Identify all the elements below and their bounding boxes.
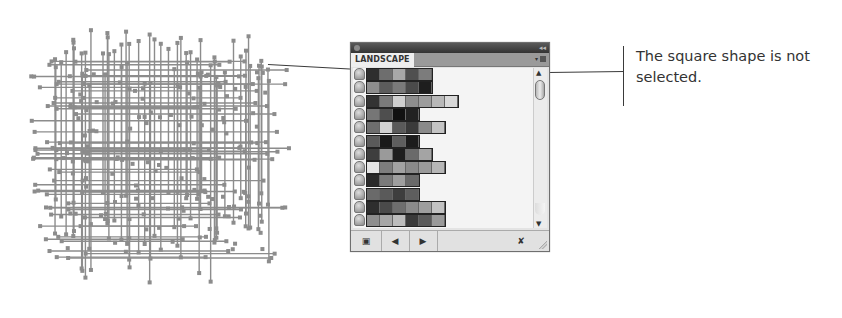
symbol-swatch[interactable]	[380, 82, 393, 93]
panel-titlebar[interactable]: ◂◂	[351, 43, 549, 53]
symbol-swatch[interactable]	[367, 175, 380, 186]
symbol-swatch[interactable]	[406, 189, 419, 200]
symbol-swatches[interactable]	[366, 188, 420, 201]
symbol-swatch[interactable]	[393, 136, 406, 147]
symbol-row[interactable]	[353, 95, 459, 108]
symbol-row[interactable]	[353, 68, 433, 81]
symbol-row[interactable]	[353, 121, 446, 134]
symbol-swatches[interactable]	[366, 148, 433, 161]
symbol-list[interactable]	[353, 68, 533, 228]
symbol-swatch[interactable]	[406, 122, 419, 133]
scrollbar[interactable]: ▲ ▼	[533, 68, 547, 228]
symbol-swatch[interactable]	[367, 122, 380, 133]
symbol-swatches[interactable]	[366, 81, 433, 94]
panel-menu-button[interactable]: ▾	[537, 55, 546, 64]
symbol-swatches[interactable]	[366, 161, 446, 174]
resize-grip[interactable]	[539, 241, 547, 249]
scroll-thumb[interactable]	[535, 80, 545, 100]
symbol-swatch[interactable]	[380, 162, 393, 173]
symbol-swatch[interactable]	[380, 149, 393, 160]
next-library-button[interactable]: ▶	[409, 231, 438, 251]
symbol-swatches[interactable]	[366, 135, 420, 148]
symbol-swatch[interactable]	[380, 215, 393, 226]
symbol-swatch[interactable]	[432, 215, 445, 226]
close-icon[interactable]	[354, 45, 360, 51]
symbol-swatch[interactable]	[419, 122, 432, 133]
symbol-row[interactable]	[353, 81, 433, 94]
symbol-swatch[interactable]	[380, 69, 393, 80]
symbol-swatch[interactable]	[406, 162, 419, 173]
symbol-swatch[interactable]	[380, 96, 393, 107]
symbol-swatch[interactable]	[419, 215, 432, 226]
symbol-swatch[interactable]	[380, 202, 393, 213]
symbol-row[interactable]	[353, 108, 420, 121]
symbol-swatch[interactable]	[393, 162, 406, 173]
symbol-row[interactable]	[353, 188, 420, 201]
symbol-swatch[interactable]	[393, 82, 406, 93]
symbol-swatch[interactable]	[380, 175, 393, 186]
symbol-swatch[interactable]	[432, 162, 445, 173]
symbol-swatch[interactable]	[367, 82, 380, 93]
symbol-swatch[interactable]	[406, 96, 419, 107]
symbol-swatches[interactable]	[366, 68, 433, 81]
scroll-down-icon[interactable]: ▼	[536, 220, 541, 228]
symbol-swatch[interactable]	[419, 149, 432, 160]
symbol-row[interactable]	[353, 161, 446, 174]
symbol-swatch[interactable]	[445, 96, 458, 107]
symbol-swatch[interactable]	[367, 136, 380, 147]
symbol-swatch[interactable]	[406, 109, 419, 120]
symbol-row[interactable]	[353, 174, 420, 187]
symbol-swatches[interactable]	[366, 174, 420, 187]
symbol-swatch[interactable]	[393, 149, 406, 160]
symbol-swatches[interactable]	[366, 121, 446, 134]
symbol-libraries-menu-button[interactable]: ▣	[351, 231, 382, 251]
symbol-swatch[interactable]	[367, 96, 380, 107]
scroll-up-icon[interactable]: ▲	[536, 69, 541, 77]
symbol-swatch[interactable]	[367, 202, 380, 213]
symbol-swatch[interactable]	[419, 69, 432, 80]
symbol-swatch[interactable]	[406, 82, 419, 93]
symbol-swatch[interactable]	[367, 189, 380, 200]
symbol-swatch[interactable]	[393, 215, 406, 226]
previous-library-button[interactable]: ◀	[381, 231, 410, 251]
symbol-swatch[interactable]	[380, 109, 393, 120]
symbol-swatch[interactable]	[419, 162, 432, 173]
symbol-swatch[interactable]	[367, 69, 380, 80]
symbol-swatch[interactable]	[393, 122, 406, 133]
tab-landscape[interactable]: LANDSCAPE	[351, 53, 414, 67]
symbol-swatch[interactable]	[393, 202, 406, 213]
symbol-swatch[interactable]	[393, 69, 406, 80]
collapse-icon[interactable]: ◂◂	[539, 43, 546, 53]
symbol-swatches[interactable]	[366, 108, 420, 121]
symbol-swatch[interactable]	[393, 175, 406, 186]
symbol-swatch[interactable]	[406, 202, 419, 213]
symbol-swatch[interactable]	[380, 189, 393, 200]
symbol-row[interactable]	[353, 214, 446, 227]
symbol-swatch[interactable]	[393, 109, 406, 120]
symbol-swatch[interactable]	[432, 96, 445, 107]
symbol-swatches[interactable]	[366, 214, 446, 227]
symbol-swatch[interactable]	[432, 122, 445, 133]
symbol-swatches[interactable]	[366, 201, 446, 214]
symbol-swatch[interactable]	[380, 136, 393, 147]
symbol-row[interactable]	[353, 201, 446, 214]
symbol-swatch[interactable]	[419, 96, 432, 107]
symbol-swatch[interactable]	[406, 136, 419, 147]
symbol-swatch[interactable]	[393, 96, 406, 107]
symbol-swatch[interactable]	[432, 202, 445, 213]
symbol-swatches[interactable]	[366, 95, 459, 108]
symbol-row[interactable]	[353, 135, 420, 148]
delete-symbol-button[interactable]: ✘	[513, 231, 529, 251]
symbol-swatch[interactable]	[380, 122, 393, 133]
symbol-swatch[interactable]	[367, 162, 380, 173]
symbol-row[interactable]	[353, 148, 433, 161]
symbol-swatch[interactable]	[406, 69, 419, 80]
symbol-swatch[interactable]	[393, 189, 406, 200]
symbol-swatch[interactable]	[419, 202, 432, 213]
symbol-swatch[interactable]	[367, 215, 380, 226]
symbol-swatch[interactable]	[419, 82, 432, 93]
symbol-swatch[interactable]	[406, 175, 419, 186]
symbol-swatch[interactable]	[367, 109, 380, 120]
symbol-swatch[interactable]	[406, 215, 419, 226]
symbol-swatch[interactable]	[367, 149, 380, 160]
